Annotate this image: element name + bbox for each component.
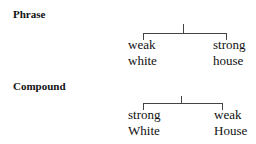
compound-right-word-2: House	[214, 123, 247, 139]
phrase-right-word-2: house	[213, 53, 243, 69]
phrase-right-word-1: strong	[213, 37, 246, 53]
phrase-root-stem	[183, 24, 184, 33]
compound-left-word-2: White	[128, 123, 160, 139]
compound-heading: Compound	[13, 81, 66, 92]
compound-left-word-1: strong	[128, 107, 161, 123]
phrase-left-word-1: weak	[128, 37, 155, 53]
compound-right-word-1: weak	[214, 107, 241, 123]
compound-root-stem	[181, 96, 182, 103]
phrase-crossbar	[143, 33, 227, 34]
phrase-left-word-2: white	[128, 53, 157, 69]
phrase-heading: Phrase	[13, 9, 45, 20]
compound-crossbar	[143, 103, 223, 104]
